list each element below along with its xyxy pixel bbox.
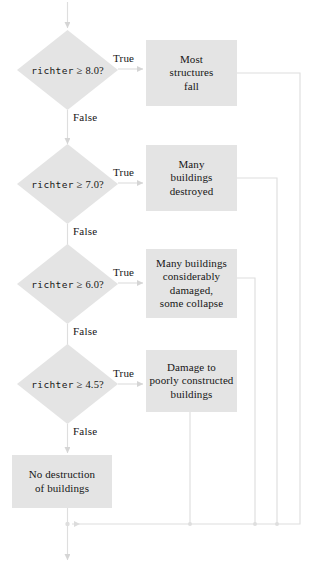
junction-dot-main [65,522,69,526]
merge-arrowhead [74,521,80,527]
outcome-line: Many [170,158,214,172]
edge-label-d2-true: True [113,166,134,178]
edge-label-d4-true: True [113,367,134,379]
decision-threshold: 6.0? [85,279,103,290]
decision-operator: ≥ [74,279,85,290]
outcome-line: fall [170,80,214,94]
decision-node-richter-6[interactable]: richter ≥ 6.0? [17,244,118,324]
decision-variable: richter [31,279,74,290]
decision-node-richter-45[interactable]: richter ≥ 4.5? [17,344,118,424]
decision-label: richter ≥ 7.0? [31,179,104,190]
edge-o2-merge [237,178,277,524]
outcome-line: Many buildings [156,257,227,271]
outcome-node-no-destruction[interactable]: No destruction of buildings [12,455,112,508]
outcome-line: buildings [150,388,234,402]
edge-label-d1-true: True [113,52,134,64]
flowchart-canvas: richter ≥ 8.0? richter ≥ 7.0? richter ≥ … [0,0,319,572]
outcome-label: Damage to poorly constructed buildings [150,361,234,402]
decision-label: richter ≥ 4.5? [31,379,104,390]
decision-threshold: 7.0? [85,179,103,190]
outcome-label: Many buildings destroyed [170,158,214,199]
junction-dot-o3 [253,522,257,526]
outcome-node-most-structures-fall[interactable]: Most structures fall [146,40,237,106]
edge-label-d3-false: False [73,325,97,337]
outcome-line: destroyed [170,185,214,199]
outcome-node-many-buildings-destroyed[interactable]: Many buildings destroyed [146,145,237,211]
decision-node-richter-8[interactable]: richter ≥ 8.0? [17,30,118,110]
outcome-line: Most [170,53,214,67]
decision-node-richter-7[interactable]: richter ≥ 7.0? [17,144,118,224]
outcome-line: poorly constructed [150,374,234,388]
outcome-label: No destruction of buildings [29,468,95,495]
outcome-node-many-buildings-damaged[interactable]: Many buildings considerably damaged, som… [146,249,237,318]
junction-dot-o4 [188,522,192,526]
decision-variable: richter [31,379,74,390]
decision-variable: richter [31,179,74,190]
merge-junction-dots [65,522,279,526]
junction-dot-o2 [275,522,279,526]
decision-threshold: 4.5? [85,379,103,390]
decision-operator: ≥ [74,179,85,190]
edge-label-d4-false: False [73,425,97,437]
decision-label: richter ≥ 8.0? [31,65,104,76]
outcome-label: Most structures fall [170,53,214,94]
decision-variable: richter [31,65,74,76]
edge-label-d2-false: False [73,225,97,237]
outcome-node-damage-poorly-constructed[interactable]: Damage to poorly constructed buildings [146,350,237,412]
decision-operator: ≥ [74,379,85,390]
decision-operator: ≥ [74,65,85,76]
outcome-line: considerably [156,270,227,284]
outcome-line: damaged, [156,284,227,298]
edge-label-d3-true: True [113,266,134,278]
edge-o3-merge [237,278,255,524]
outcome-line: some collapse [156,297,227,311]
outcome-line: Damage to [150,361,234,375]
edge-label-d1-false: False [73,111,97,123]
outcome-line: of buildings [29,482,95,496]
outcome-line: structures [170,66,214,80]
outcome-line: buildings [170,171,214,185]
outcome-line: No destruction [29,468,95,482]
decision-label: richter ≥ 6.0? [31,279,104,290]
decision-threshold: 8.0? [85,65,103,76]
outcome-label: Many buildings considerably damaged, som… [156,257,227,311]
